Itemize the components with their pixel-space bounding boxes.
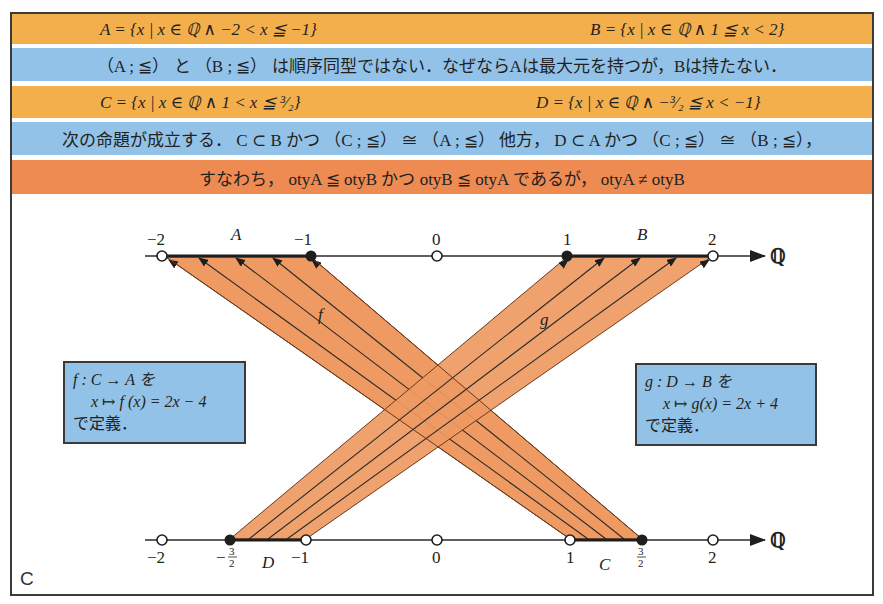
rationals-label: ℚ — [770, 245, 786, 267]
tick-label: −1 — [291, 548, 309, 567]
f-definition-line2: x ↦ f (x) = 2x − 4 — [73, 391, 236, 413]
tick-label: 1 — [566, 548, 575, 567]
closed-point-1 — [562, 251, 573, 262]
f-definition-box: f : C → A を x ↦ f (x) = 2x − 4 で定義． — [63, 361, 246, 444]
open-point-1 — [565, 535, 575, 545]
fraction-numerator: 3 — [229, 545, 235, 557]
f-definition-line1: f : C → A を — [73, 369, 236, 391]
open-point-2 — [708, 251, 718, 261]
fraction-numerator: 3 — [638, 545, 644, 557]
tick-label: − — [216, 548, 226, 567]
g-definition-line3: で定義． — [645, 415, 807, 437]
f-definition-line3: で定義． — [73, 413, 236, 435]
tick-label: 0 — [432, 548, 441, 567]
tick-label: 2 — [708, 230, 717, 249]
tick-label: −2 — [147, 230, 165, 249]
closed-point-minus-1 — [306, 251, 317, 262]
fraction-denominator: 2 — [638, 557, 644, 569]
tick-label: 1 — [563, 230, 572, 249]
set-label-d: D — [261, 553, 275, 572]
mapping-diagram: −2 −1 0 1 2 A B ℚ −2 − 3 2 −1 0 1 3 2 2 … — [0, 0, 883, 604]
g-definition-line1: g : D → B を — [645, 371, 807, 393]
set-label-a: A — [230, 225, 242, 244]
open-point-2 — [708, 535, 718, 545]
g-definition-box: g : D → B を x ↦ g(x) = 2x + 4 で定義． — [635, 363, 817, 446]
open-point-0 — [432, 251, 442, 261]
set-label-b: B — [637, 225, 648, 244]
tick-label: −1 — [294, 230, 312, 249]
map-label-g: g — [540, 310, 549, 329]
fraction-denominator: 2 — [229, 557, 235, 569]
tick-label: 0 — [432, 230, 441, 249]
open-point-minus-1 — [301, 535, 311, 545]
figure-corner-label: C — [20, 568, 34, 590]
open-point-0 — [432, 535, 442, 545]
rationals-label: ℚ — [770, 529, 786, 551]
open-point-minus-2 — [157, 535, 167, 545]
open-point-minus-2 — [157, 251, 167, 261]
closed-point-minus-3-2 — [225, 535, 236, 546]
tick-label: 2 — [708, 548, 717, 567]
tick-label: −2 — [147, 548, 165, 567]
closed-point-3-2 — [637, 535, 648, 546]
set-label-c: C — [599, 555, 611, 574]
g-definition-line2: x ↦ g(x) = 2x + 4 — [645, 393, 807, 415]
